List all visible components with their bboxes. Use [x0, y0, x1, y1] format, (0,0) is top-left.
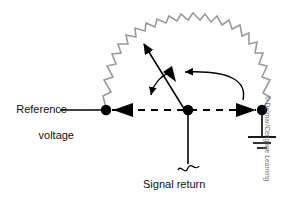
figure-canvas: Reference voltage Signal return © Delmar… — [0, 0, 301, 200]
reference-voltage-label-line1: Reference — [16, 103, 67, 115]
arrowhead-right-into-node — [236, 103, 256, 117]
signal-return-wire — [178, 110, 199, 171]
arrowhead-left-into-node — [113, 103, 133, 117]
reference-voltage-label-line2: voltage — [4, 129, 78, 142]
current-direction-arc-right — [185, 72, 244, 100]
left-node — [101, 105, 111, 115]
resistive-ground-path — [103, 13, 270, 110]
copyright-credit: © Delmar/Cengage Learning — [264, 96, 271, 200]
center-node — [183, 105, 193, 115]
potential-difference-arrow — [144, 44, 186, 112]
signal-return-label: Signal return — [143, 178, 205, 191]
earth-ground-symbol — [248, 110, 276, 148]
reference-voltage-label: Reference voltage — [4, 90, 78, 168]
